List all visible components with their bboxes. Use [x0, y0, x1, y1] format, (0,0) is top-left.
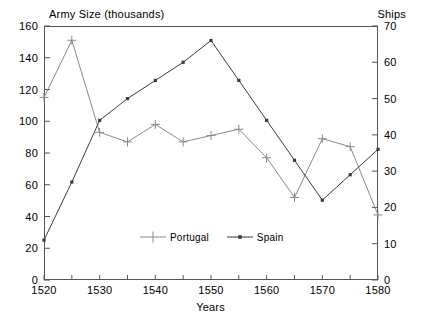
x-tick-1550: 1550: [186, 284, 236, 296]
left-tick-80: 80: [4, 147, 38, 159]
x-tick-1580: 1580: [353, 284, 403, 296]
x-tick-1540: 1540: [130, 284, 180, 296]
right-tick-70: 70: [384, 20, 418, 32]
legend-item-portugal: Portugal: [140, 231, 209, 243]
legend-item-spain: Spain: [227, 231, 284, 243]
x-tick-1570: 1570: [297, 284, 347, 296]
x-tick-1520: 1520: [19, 284, 69, 296]
left-tick-60: 60: [4, 179, 38, 191]
chart-container: Army Size (thousands) Ships 020406080100…: [0, 0, 421, 322]
right-tick-10: 10: [384, 238, 418, 250]
right-axis-title: Ships: [377, 8, 406, 20]
right-tick-30: 30: [384, 165, 418, 177]
right-tick-50: 50: [384, 93, 418, 105]
chart-legend: Portugal Spain: [140, 231, 283, 243]
left-tick-100: 100: [4, 115, 38, 127]
left-tick-40: 40: [4, 211, 38, 223]
legend-marker-spain: [227, 231, 253, 243]
left-tick-20: 20: [4, 242, 38, 254]
right-tick-40: 40: [384, 129, 418, 141]
left-tick-160: 160: [4, 20, 38, 32]
right-tick-20: 20: [384, 201, 418, 213]
legend-marker-portugal: [140, 231, 166, 243]
left-axis-title: Army Size (thousands): [49, 8, 164, 20]
left-tick-140: 140: [4, 52, 38, 64]
left-tick-120: 120: [4, 84, 38, 96]
x-tick-1560: 1560: [242, 284, 292, 296]
x-axis-title: Years: [0, 301, 421, 313]
right-tick-60: 60: [384, 56, 418, 68]
legend-label-portugal: Portugal: [170, 232, 209, 243]
legend-label-spain: Spain: [257, 232, 284, 243]
x-tick-1530: 1530: [75, 284, 125, 296]
